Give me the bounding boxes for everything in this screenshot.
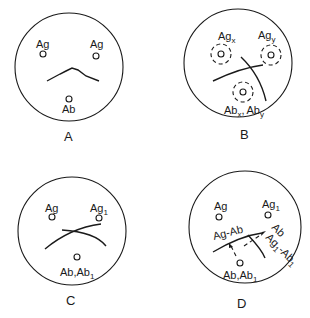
antigen-label-right: Ag: [90, 38, 103, 50]
antigen-label: Ag: [214, 200, 227, 212]
precipitin-line: [47, 68, 99, 81]
antigen-y-diffusion-ring: [261, 45, 281, 65]
antibody-diffusion-ring: [233, 82, 253, 102]
agar-plate: [184, 9, 292, 117]
diffusion-arrow-left: [231, 246, 236, 256]
antibody-label: Ab,Ab1: [60, 266, 95, 281]
antigen-x-label: Agx: [218, 30, 235, 45]
panel-label-a: A: [64, 129, 73, 144]
antibody-label: Ab: [62, 103, 75, 115]
antigen-1-well: [96, 215, 102, 221]
antigen-well: [216, 214, 222, 220]
antigen-label-left: Ag: [36, 38, 49, 50]
antibody-well: [66, 96, 72, 102]
panel-b: Agx Agy Abx,Aby B: [184, 9, 292, 142]
antibody-label: Ab,Ab1: [223, 269, 258, 284]
panel-label-b: B: [240, 127, 249, 142]
antigen-1-well: [265, 212, 271, 218]
antigen-well-left: [40, 51, 46, 57]
panel-label-d: D: [237, 296, 246, 311]
panel-c: Ag Ag1 Ab,Ab1 C: [18, 177, 126, 308]
antigen-y-label: Agy: [258, 29, 275, 44]
antibody-well: [74, 254, 80, 260]
precipitin-line-x: [213, 65, 263, 81]
antigen-x-well: [218, 51, 224, 57]
antibody-well: [237, 260, 243, 266]
antigen-well: [49, 214, 55, 220]
arrowhead-left: [229, 243, 233, 248]
antigen-1-label: Ag1: [262, 198, 280, 213]
antibody-well: [240, 89, 246, 95]
panel-a: Ag Ag Ab A: [15, 13, 123, 144]
panel-d: Ag Ag1 Ab Ag-Ab Ag1-Ab1 Ab,Ab1 D: [189, 171, 301, 311]
antigen-label: Ag: [45, 202, 58, 214]
precipitin-line-ag1: [62, 230, 106, 246]
precipitin-line-ag1-ab1: [248, 235, 265, 258]
antigen-x-diffusion-ring: [211, 44, 231, 64]
antigen-well-right: [93, 53, 99, 59]
arrowhead-right: [261, 231, 266, 236]
antigen-y-well: [268, 52, 274, 58]
panel-label-c: C: [66, 293, 75, 308]
